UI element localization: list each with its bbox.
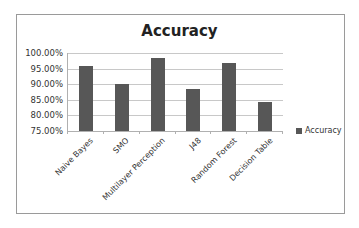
y-tick-label: 95.00%	[31, 64, 63, 74]
x-tick	[246, 131, 247, 134]
legend: Accuracy	[296, 126, 342, 135]
x-tick	[282, 131, 283, 134]
legend-swatch-icon	[296, 128, 302, 134]
gridline	[68, 84, 283, 85]
gridline	[68, 53, 283, 54]
bar	[258, 102, 272, 131]
gridline	[68, 115, 283, 116]
y-tick-label: 85.00%	[31, 95, 63, 105]
bar	[222, 63, 236, 131]
x-tick	[210, 131, 211, 134]
x-tick	[67, 131, 68, 134]
plot-area	[67, 53, 283, 132]
y-tick-label: 75.00%	[31, 126, 63, 136]
bar	[151, 58, 165, 131]
bar	[79, 66, 93, 131]
x-tick	[139, 131, 140, 134]
bar	[115, 84, 129, 131]
bar	[186, 89, 200, 131]
y-tick-label: 80.00%	[31, 110, 63, 120]
x-tick	[175, 131, 176, 134]
x-tick	[103, 131, 104, 134]
y-tick-label: 90.00%	[31, 79, 63, 89]
gridline	[68, 100, 283, 101]
chart-title: Accuracy	[0, 22, 359, 40]
legend-label: Accuracy	[305, 126, 342, 135]
gridline	[68, 69, 283, 70]
y-tick-label: 100.00%	[25, 48, 63, 58]
